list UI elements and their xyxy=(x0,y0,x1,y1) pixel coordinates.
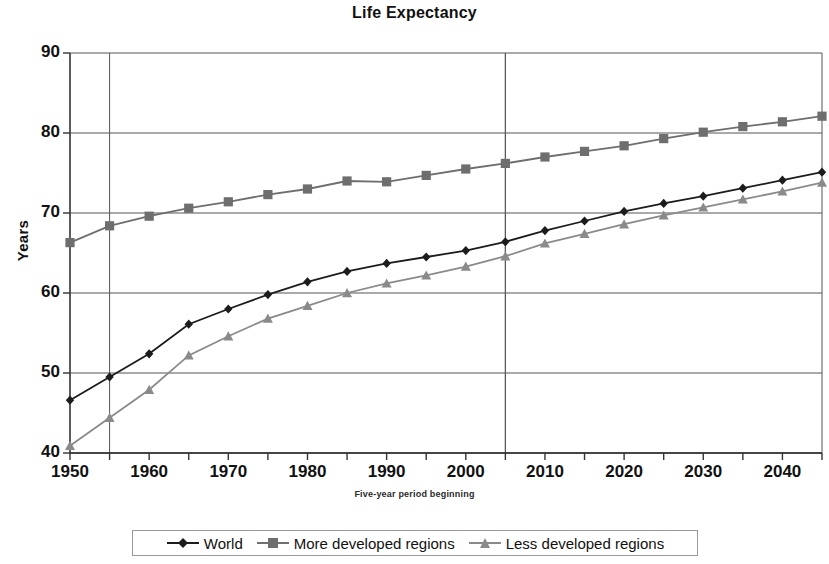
data-point-marker xyxy=(65,238,74,247)
data-point-marker xyxy=(501,237,509,246)
data-point-marker xyxy=(382,259,390,268)
x-tick-label: 1950 xyxy=(35,462,105,482)
data-point-marker xyxy=(659,199,667,208)
legend-item-less-developed: Less developed regions xyxy=(468,535,664,552)
plot-area: 908070605040 195019601970198019902000201… xyxy=(0,0,829,564)
data-point-marker xyxy=(738,122,747,131)
data-point-marker xyxy=(540,152,549,161)
data-point-marker xyxy=(264,290,272,299)
x-tick-label: 2000 xyxy=(431,462,501,482)
data-point-marker xyxy=(778,117,787,126)
y-tick-label: 40 xyxy=(8,442,60,462)
data-point-marker xyxy=(105,221,114,230)
data-point-marker xyxy=(620,141,629,150)
x-tick-label: 2020 xyxy=(589,462,659,482)
y-tick-label: 50 xyxy=(8,362,60,382)
data-point-marker xyxy=(184,204,193,213)
x-tick-label: 2040 xyxy=(747,462,817,482)
data-point-marker xyxy=(343,267,351,276)
diamond-marker-icon xyxy=(166,536,200,550)
data-point-marker xyxy=(105,413,115,422)
data-point-marker xyxy=(501,159,510,168)
x-tick-label: 2010 xyxy=(510,462,580,482)
legend-label-less-developed: Less developed regions xyxy=(506,535,664,552)
data-point-marker xyxy=(659,134,668,143)
data-point-marker xyxy=(65,441,75,450)
y-axis-title: Years xyxy=(14,201,31,281)
data-point-marker xyxy=(145,212,154,221)
series-less-developed-regions xyxy=(65,178,827,450)
legend-label-more-developed: More developed regions xyxy=(294,535,455,552)
square-marker-icon xyxy=(256,536,290,550)
data-point-marker xyxy=(184,350,194,359)
x-axis-title: Five-year period beginning xyxy=(0,489,829,499)
data-series xyxy=(65,112,827,450)
legend-item-more-developed: More developed regions xyxy=(256,535,455,552)
data-point-marker xyxy=(817,112,826,121)
data-point-marker xyxy=(224,197,233,206)
data-point-marker xyxy=(778,176,786,185)
data-point-marker xyxy=(224,304,232,313)
x-tick-label: 1960 xyxy=(114,462,184,482)
series-world xyxy=(66,168,826,405)
data-point-marker xyxy=(739,184,747,193)
data-point-marker xyxy=(462,246,470,255)
chart-legend: World More developed regions Less develo… xyxy=(132,530,698,556)
data-point-marker xyxy=(223,331,233,340)
data-point-marker xyxy=(620,207,628,216)
data-point-marker xyxy=(263,190,272,199)
y-tick-label: 60 xyxy=(8,282,60,302)
data-point-marker xyxy=(66,396,74,405)
data-point-marker xyxy=(342,176,351,185)
data-point-marker xyxy=(382,177,391,186)
y-tick-label: 80 xyxy=(8,122,60,142)
x-tick-label: 1990 xyxy=(352,462,422,482)
series-more-developed-regions xyxy=(65,112,826,248)
data-point-marker xyxy=(580,147,589,156)
data-point-marker xyxy=(817,178,827,187)
x-tick-label: 1970 xyxy=(193,462,263,482)
data-point-marker xyxy=(580,216,588,225)
data-point-marker xyxy=(699,192,707,201)
life-expectancy-chart: Life Expectancy 908070605040 19501960197… xyxy=(0,0,829,564)
legend-label-world: World xyxy=(204,535,243,552)
x-tick-label: 2030 xyxy=(668,462,738,482)
legend-item-world: World xyxy=(166,535,243,552)
data-point-marker xyxy=(699,128,708,137)
triangle-marker-icon xyxy=(468,536,502,550)
data-point-marker xyxy=(461,164,470,173)
data-point-marker xyxy=(818,168,826,177)
axis-ticks xyxy=(63,53,822,460)
data-point-marker xyxy=(422,252,430,261)
data-point-marker xyxy=(541,226,549,235)
data-point-marker xyxy=(422,171,431,180)
x-tick-label: 1980 xyxy=(272,462,342,482)
data-point-marker xyxy=(303,277,311,286)
y-tick-label: 90 xyxy=(8,42,60,62)
data-point-marker xyxy=(303,184,312,193)
data-point-marker xyxy=(105,372,113,381)
